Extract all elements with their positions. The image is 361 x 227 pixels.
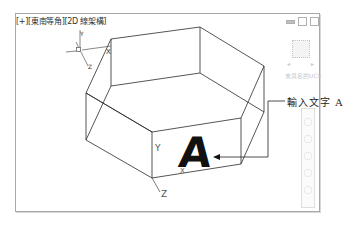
text-object-a[interactable]: A [176,128,214,177]
ucs-icon [152,178,160,192]
callout-label: 輸入文字 A [287,94,343,109]
cursor-y-label: Y [79,30,84,37]
hexagonal-prism [86,27,264,178]
cursor-z-label: Z [88,63,92,70]
arrowhead-icon [213,154,220,160]
wireframe-scene: Y X Z Y Z X A [0,0,361,227]
callout-leader [218,101,285,157]
ucs-z-label: Z [161,189,167,199]
cursor-x-label: X [106,48,111,56]
crosshair-cursor [66,30,111,66]
ucs-y-label: Y [154,143,161,153]
